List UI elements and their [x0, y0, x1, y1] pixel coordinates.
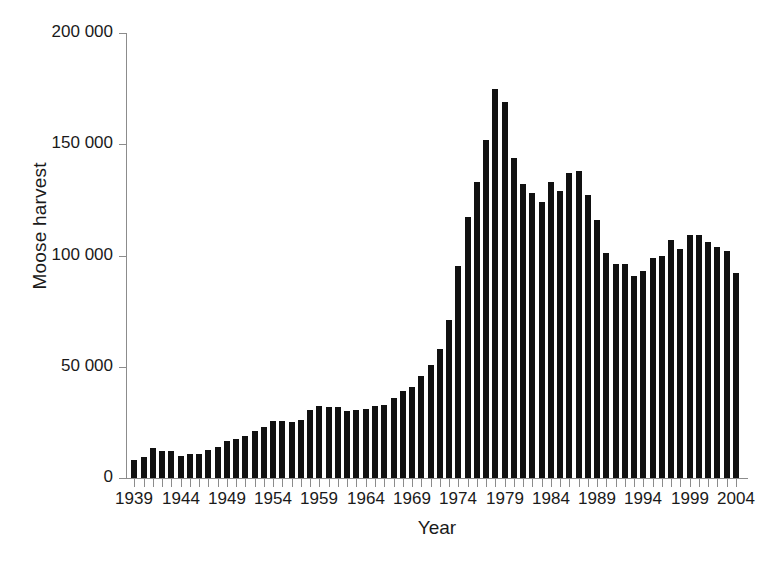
bar	[298, 420, 304, 478]
bar	[205, 450, 211, 478]
bar	[539, 202, 545, 478]
x-axis-tick-minor	[347, 479, 348, 487]
bar	[566, 173, 572, 478]
y-axis-tick	[119, 367, 126, 368]
bar	[511, 158, 517, 478]
bar	[372, 406, 378, 478]
bar	[548, 182, 554, 478]
x-axis-tick-major	[690, 479, 691, 487]
x-axis-tick-minor	[560, 479, 561, 487]
bar	[252, 431, 258, 478]
bar	[474, 182, 480, 478]
x-axis-tick-minor	[356, 479, 357, 487]
x-axis-tick-major	[736, 479, 737, 487]
x-axis-tick-minor	[625, 479, 626, 487]
bars-layer	[127, 33, 747, 478]
bar	[335, 407, 341, 478]
y-axis-tick	[119, 256, 126, 257]
bar	[150, 448, 156, 478]
x-axis-tick-minor	[218, 479, 219, 487]
x-axis-tick-minor	[486, 479, 487, 487]
bar	[196, 454, 202, 478]
x-axis-tick-minor	[421, 479, 422, 487]
x-axis-tick-minor	[403, 479, 404, 487]
x-axis-tick-minor	[245, 479, 246, 487]
bar	[270, 421, 276, 478]
x-axis-title: Year	[127, 517, 747, 539]
bar	[455, 266, 461, 478]
x-axis-tick-minor	[634, 479, 635, 487]
x-axis-tick-minor	[310, 479, 311, 487]
x-axis-tick-minor	[301, 479, 302, 487]
bar	[714, 247, 720, 478]
y-axis-tick	[119, 144, 126, 145]
x-axis-tick-minor	[449, 479, 450, 487]
x-axis-tick-minor	[162, 479, 163, 487]
bar	[261, 427, 267, 478]
x-axis-tick-minor	[171, 479, 172, 487]
x-axis-tick-minor	[588, 479, 589, 487]
x-axis-tick-minor	[708, 479, 709, 487]
x-axis-tick-minor	[662, 479, 663, 487]
bar	[131, 460, 137, 478]
bar	[215, 447, 221, 478]
bar	[344, 411, 350, 478]
bar	[603, 253, 609, 478]
bar	[640, 271, 646, 478]
bar	[724, 251, 730, 478]
bar	[622, 264, 628, 478]
bar	[363, 409, 369, 478]
bar	[465, 217, 471, 478]
bar	[502, 102, 508, 478]
y-axis-tick	[119, 478, 126, 479]
bar	[418, 376, 424, 478]
bar	[391, 398, 397, 478]
x-axis-tick-minor	[208, 479, 209, 487]
x-axis-tick-minor	[292, 479, 293, 487]
x-axis-tick-major	[134, 479, 135, 487]
bar	[307, 410, 313, 478]
x-axis-tick-minor	[153, 479, 154, 487]
bar	[668, 240, 674, 478]
x-axis-tick-minor	[727, 479, 728, 487]
x-axis-tick-label: 2004	[706, 489, 765, 509]
bar	[187, 454, 193, 478]
x-axis-tick-minor	[338, 479, 339, 487]
x-axis-tick-minor	[653, 479, 654, 487]
x-axis-tick-major	[597, 479, 598, 487]
bar	[576, 171, 582, 478]
bar	[178, 456, 184, 478]
bar	[483, 140, 489, 478]
x-axis-tick-minor	[282, 479, 283, 487]
x-axis-tick-minor	[394, 479, 395, 487]
x-axis-tick-minor	[431, 479, 432, 487]
x-axis-tick-minor	[255, 479, 256, 487]
bar	[696, 235, 702, 478]
x-axis-tick-minor	[514, 479, 515, 487]
bar	[400, 391, 406, 478]
bar	[585, 195, 591, 478]
x-axis-tick-minor	[375, 479, 376, 487]
x-axis-tick-minor	[329, 479, 330, 487]
x-axis-tick-major	[227, 479, 228, 487]
x-axis-tick-minor	[440, 479, 441, 487]
x-axis-tick-minor	[384, 479, 385, 487]
x-axis-tick-minor	[680, 479, 681, 487]
x-axis-tick-minor	[717, 479, 718, 487]
x-axis-tick-minor	[495, 479, 496, 487]
y-axis-tick	[119, 33, 126, 34]
bar	[326, 407, 332, 478]
x-axis-tick-minor	[468, 479, 469, 487]
bar	[705, 242, 711, 478]
x-axis-tick-minor	[144, 479, 145, 487]
bar	[141, 457, 147, 478]
bar	[353, 410, 359, 478]
x-axis-tick-minor	[616, 479, 617, 487]
moose-harvest-bar-chart: Moose harvest 050 000100 000150 000200 0…	[0, 0, 765, 564]
y-axis-tick-label: 0	[0, 467, 113, 487]
bar	[446, 320, 452, 478]
y-axis-title: Moose harvest	[29, 126, 51, 326]
x-axis-tick-minor	[477, 479, 478, 487]
y-axis-tick-label: 100 000	[0, 245, 113, 265]
bar	[659, 256, 665, 479]
